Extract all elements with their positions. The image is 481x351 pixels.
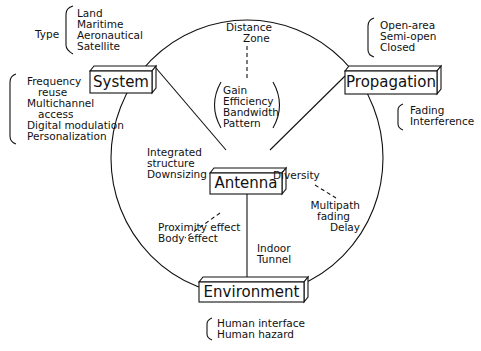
node-system: System bbox=[90, 73, 152, 91]
multipath-item: Delay bbox=[298, 222, 360, 234]
node-antenna: Antenna bbox=[210, 174, 282, 192]
brace-type bbox=[66, 6, 73, 54]
paren-right bbox=[273, 82, 280, 128]
brace-propagation-env bbox=[368, 18, 374, 57]
type-label: Type bbox=[35, 29, 59, 41]
structure-item: Downsizing bbox=[147, 169, 207, 181]
brace-propagation bbox=[398, 104, 403, 130]
prop-env-item: Closed bbox=[380, 42, 415, 54]
antenna-param: Pattern bbox=[223, 118, 261, 130]
diversity-label: Diversity bbox=[273, 170, 320, 182]
line-propagation-antenna bbox=[270, 76, 345, 150]
dash-multipath bbox=[315, 185, 336, 198]
proximity-item: Body effect bbox=[158, 233, 218, 245]
node-environment: Environment bbox=[199, 283, 304, 301]
node-propagation: Propagation bbox=[345, 73, 437, 91]
prop-item: Interference bbox=[410, 116, 474, 128]
human-item: Human hazard bbox=[217, 329, 294, 341]
paren-left bbox=[215, 82, 222, 128]
type-satellite: Satellite bbox=[77, 41, 120, 53]
indoor-item: Tunnel bbox=[257, 254, 291, 266]
zone-label: Zone bbox=[243, 33, 270, 45]
system-item: Personalization bbox=[27, 131, 107, 143]
brace-system bbox=[10, 74, 16, 144]
line-system-antenna bbox=[156, 68, 226, 150]
brace-environment bbox=[207, 318, 212, 340]
